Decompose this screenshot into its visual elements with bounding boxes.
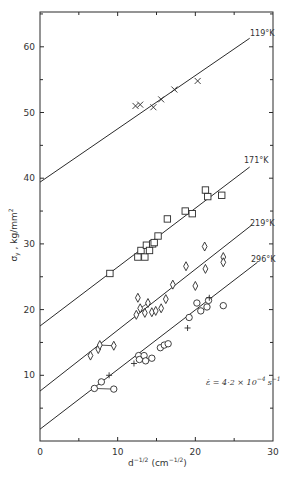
cross-marker [171, 87, 177, 93]
cross-marker [137, 102, 143, 108]
series-171K [107, 187, 225, 277]
cross-marker [195, 78, 201, 84]
x-axis-label-close: ) [183, 458, 187, 468]
svg-text:σy , kg/mm2: σy , kg/mm2 [7, 208, 21, 261]
diamond-marker [111, 341, 116, 350]
series-label-296K: 296°K [251, 255, 276, 264]
y-tick-label: 10 [24, 370, 36, 380]
x-axis-label-units-sup: −1/2 [169, 456, 184, 463]
fit-lines [40, 38, 257, 429]
series-label-171K: 171°K [244, 156, 269, 165]
square-marker [202, 187, 208, 193]
plot-frame [40, 12, 273, 441]
circle-marker [198, 308, 204, 314]
y-tick-label: 30 [24, 239, 36, 249]
x-tick-label: 20 [190, 447, 202, 457]
circle-marker [142, 358, 148, 364]
square-marker [164, 216, 170, 222]
square-marker [135, 254, 141, 260]
square-marker [142, 254, 148, 260]
diamond-marker [153, 306, 158, 315]
square-marker [182, 208, 188, 214]
circle-marker [165, 341, 171, 347]
diamond-marker [134, 310, 139, 319]
y-tick-label: 60 [24, 42, 36, 52]
strain-rate-annotation: ε̇ = 4·2 × 10−4s−1 [206, 375, 281, 387]
x-axis-label: d−1/2(cm−1/2) [128, 456, 187, 468]
fit-line-119K [40, 38, 250, 182]
svg-text:d−1/2(cm−1/2): d−1/2(cm−1/2) [128, 456, 187, 468]
series-119K [133, 78, 201, 110]
square-marker [146, 247, 152, 253]
square-marker [205, 193, 211, 199]
y-tick-label: 20 [24, 305, 36, 315]
diamond-marker [159, 304, 164, 313]
circle-marker [91, 385, 97, 391]
annotation-exp: −4 [257, 375, 266, 382]
axis-ticks: 0102030102030405060 [24, 12, 279, 457]
cross-marker [158, 96, 164, 102]
x-tick-label: 10 [112, 447, 124, 457]
y-axis-label-sup: 2 [7, 208, 14, 212]
plus-marker [131, 360, 137, 366]
diamond-marker [135, 293, 140, 302]
x-tick-label: 30 [267, 447, 279, 457]
square-marker [107, 270, 113, 276]
cross-marker [133, 103, 139, 109]
y-tick-label: 40 [24, 173, 36, 183]
plot-border [40, 12, 273, 441]
circle-marker [111, 386, 117, 392]
diamond-marker [184, 262, 189, 271]
circle-marker [194, 300, 200, 306]
series-label-119K: 119°K [250, 29, 275, 38]
svg-text:ε̇ = 4·2 × 10−4s−1: ε̇ = 4·2 × 10−4s−1 [206, 375, 281, 387]
square-marker [151, 239, 157, 245]
y-axis-label-units: , kg/mm [9, 212, 19, 252]
fit-line-296K [40, 262, 257, 429]
series-labels: 119°K 171°K 219°K 296°K [244, 29, 276, 264]
circle-marker [204, 304, 210, 310]
diamond-marker [202, 242, 207, 251]
annotation-main: ε̇ = 4·2 × 10 [206, 378, 257, 387]
square-marker [219, 192, 225, 198]
diamond-marker [193, 281, 198, 290]
x-axis-label-d-sup: −1/2 [134, 456, 149, 463]
square-marker [155, 233, 161, 239]
diamond-marker [203, 264, 208, 273]
series-label-219K: 219°K [250, 219, 275, 228]
x-tick-label: 0 [37, 447, 43, 457]
square-marker [189, 210, 195, 216]
plus-marker [185, 325, 191, 331]
diamond-marker [146, 299, 151, 308]
circle-marker [220, 302, 226, 308]
yield-stress-vs-grain-size-chart: 0102030102030405060 119°K 171°K 219°K 29… [0, 0, 284, 477]
cross-marker [150, 104, 156, 110]
x-axis-label-units: (cm [151, 458, 168, 468]
annotation-unit-exp: −1 [272, 375, 281, 382]
y-axis-label: σy , kg/mm2 [7, 208, 21, 261]
circle-marker [149, 355, 155, 361]
diamond-marker [163, 295, 168, 304]
circle-marker [98, 379, 104, 385]
circle-marker [186, 314, 192, 320]
y-tick-label: 50 [24, 108, 36, 118]
